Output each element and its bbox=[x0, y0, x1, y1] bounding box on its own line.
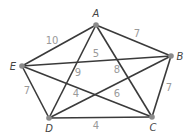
vertex-a bbox=[93, 22, 99, 28]
edge-weight-dc: 4 bbox=[93, 120, 99, 131]
vertex-b bbox=[168, 53, 174, 59]
edge-weight-ec: 4 bbox=[73, 88, 79, 99]
edge-dc bbox=[49, 117, 152, 118]
vertex-label-b: B bbox=[177, 51, 184, 62]
edge-ec bbox=[22, 66, 152, 117]
vertex-label-e: E bbox=[10, 61, 17, 72]
edge-weight-eb: 5 bbox=[93, 48, 99, 59]
edge-weight-ed: 7 bbox=[24, 85, 30, 96]
edge-ac bbox=[96, 25, 152, 117]
edge-weight-ad: 9 bbox=[75, 67, 81, 78]
vertex-d bbox=[46, 115, 52, 121]
vertex-label-a: A bbox=[92, 8, 100, 19]
edge-weight-db: 6 bbox=[114, 88, 120, 99]
vertex-e bbox=[19, 63, 25, 69]
edge-db bbox=[49, 56, 171, 118]
vertex-label-d: D bbox=[45, 123, 53, 134]
edge-weight-ac: 8 bbox=[114, 64, 120, 75]
weighted-graph-diagram: 10777459846 ABCDE bbox=[0, 0, 191, 138]
edge-weight-bc: 7 bbox=[166, 82, 172, 93]
edges-group bbox=[22, 25, 171, 118]
edge-weight-ae: 10 bbox=[46, 35, 59, 46]
vertex-label-c: C bbox=[150, 122, 157, 133]
edge-weight-ab: 7 bbox=[134, 28, 140, 39]
vertex-c bbox=[149, 114, 155, 120]
